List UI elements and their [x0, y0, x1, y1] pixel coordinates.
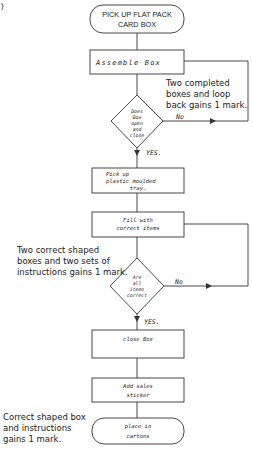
note-shapes-line: boxes and two sets of [17, 256, 128, 267]
close-box-process [92, 330, 184, 358]
end-label-2: cartons [126, 433, 149, 439]
flowchart-canvas: ) PICK UP FLAT PACK CARD BOX Assemble Bo… [0, 0, 253, 449]
close-label: close Box [123, 336, 153, 342]
note-loop-line: boxes and loop [166, 89, 247, 100]
note-shapes: Two correct shaped boxes and two sets of… [17, 245, 128, 278]
arrow-icon [206, 283, 212, 289]
corner-mark: ) [1, 1, 4, 10]
arrow-icon [210, 118, 216, 124]
end-label-1: place in [125, 423, 152, 430]
decision2-no-label: No [174, 278, 183, 286]
decision1-yes-label: YES. [146, 149, 162, 157]
decision2-line: Are [132, 275, 142, 280]
note-shapes-line: instructions gains 1 mark. [17, 267, 128, 278]
tray-label-3: tray. [130, 185, 147, 192]
add-sticker-process [92, 378, 184, 402]
sticker-label-1: Add sales [122, 383, 153, 389]
decision1-line: and [133, 127, 142, 132]
arrow-icon [134, 316, 140, 322]
note-loop: Two completed boxes and loop back gains … [166, 78, 247, 111]
assemble-label: Assemble Box [95, 59, 161, 67]
end-terminator [92, 418, 184, 444]
decision2-line: correct [127, 293, 147, 298]
tray-label-2: plastic moulded [106, 178, 156, 185]
note-loop-line: back gains 1 mark. [166, 100, 247, 111]
note-loop-line: Two completed [166, 78, 247, 89]
decision1-line: Does [130, 109, 143, 114]
note-shapes-line: Two correct shaped [17, 245, 128, 256]
arrow-icon [134, 150, 140, 156]
note-terminator-line: Correct shaped box [3, 412, 86, 423]
decision2-line: all [133, 281, 142, 286]
sticker-label-2: sticker [126, 392, 150, 398]
tray-label-1: Pick up [106, 171, 130, 178]
note-terminator: Correct shaped box and instructions gain… [3, 412, 86, 445]
start-label-2: CARD BOX [118, 20, 156, 29]
decision2-yes-label: YES. [144, 318, 160, 326]
decision1-no-label: No [175, 113, 184, 121]
note-terminator-line: gains 1 mark. [3, 434, 86, 445]
loop-back-connector-2 [164, 224, 248, 286]
start-label-1: PICK UP FLAT PACK [102, 10, 172, 19]
fill-label-1: Fill with [123, 217, 153, 223]
decision1-line: Box [133, 115, 142, 120]
decision1-line: open [131, 121, 143, 126]
note-terminator-line: and instructions [3, 423, 86, 434]
fill-label-2: correct items [116, 225, 159, 231]
decision2-line: items [130, 287, 145, 292]
decision1-line: close [130, 133, 145, 138]
